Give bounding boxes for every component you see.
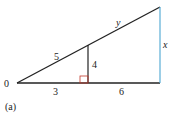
base-right-label: 6 — [119, 86, 124, 97]
origin-label: 0 — [4, 78, 9, 89]
hyp-lower-label: 5 — [54, 51, 59, 62]
hyp-upper-label: y — [115, 17, 121, 28]
right-angle-marker — [80, 76, 88, 83]
inner-height-label: 4 — [92, 59, 97, 70]
outer-height-label: x — [162, 39, 168, 50]
base-left-label: 3 — [53, 86, 58, 97]
caption: (a) — [5, 101, 16, 113]
similar-triangles-diagram: 0 5 y 4 3 6 x (a) — [0, 0, 174, 116]
